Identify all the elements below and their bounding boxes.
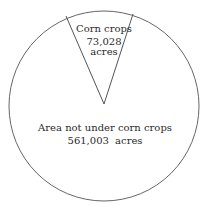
non-corn-value: 561,003 bbox=[68, 135, 109, 146]
corn-crops-label: Corn crops 73,028 acres bbox=[72, 24, 136, 57]
non-corn-label: Area not under corn crops 561,003 acres bbox=[20, 123, 190, 146]
non-corn-unit: acres bbox=[115, 135, 142, 146]
corn-crops-name: Corn crops bbox=[72, 24, 136, 34]
non-corn-amount: 561,003 acres bbox=[20, 136, 190, 146]
corn-crops-unit: acres bbox=[72, 47, 136, 57]
non-corn-name: Area not under corn crops bbox=[20, 123, 190, 133]
